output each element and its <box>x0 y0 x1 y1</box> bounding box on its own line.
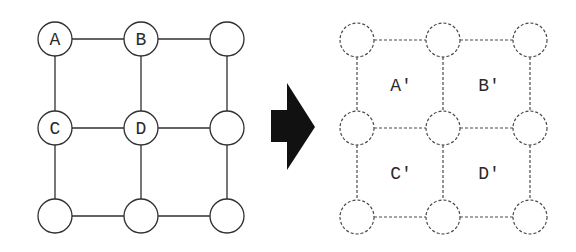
cell-label-d-prime: D′ <box>478 164 500 184</box>
node-label: C <box>50 119 61 139</box>
node <box>124 199 158 233</box>
dashed-node <box>340 111 374 145</box>
node-label: D <box>136 119 147 139</box>
dashed-node <box>513 23 547 57</box>
dashed-node <box>426 200 460 234</box>
dashed-node <box>513 200 547 234</box>
cell-label-b-prime: B′ <box>478 76 500 96</box>
target-grid <box>340 23 547 234</box>
node-label: A <box>50 30 61 50</box>
dashed-node <box>426 23 460 57</box>
grid-transformation-diagram: A B C D <box>0 0 576 252</box>
node <box>210 199 244 233</box>
dashed-node <box>426 111 460 145</box>
cell-label-a-prime: A′ <box>390 76 412 96</box>
dashed-node <box>340 23 374 57</box>
node <box>210 22 244 56</box>
node-label: B <box>136 30 147 50</box>
cell-label-c-prime: C′ <box>390 164 412 184</box>
dashed-node <box>340 200 374 234</box>
dashed-node <box>513 111 547 145</box>
target-cell-labels: A′ B′ C′ D′ <box>390 76 500 184</box>
node <box>38 199 72 233</box>
right-arrow-icon <box>271 83 315 170</box>
node <box>210 111 244 145</box>
